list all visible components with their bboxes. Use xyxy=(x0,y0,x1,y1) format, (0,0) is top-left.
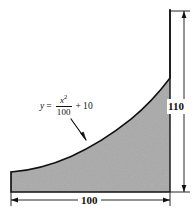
equation-numerator: x2 xyxy=(56,96,72,106)
dim-arrow-left-icon xyxy=(11,198,18,203)
equation-plus: + xyxy=(76,101,81,111)
equation-lhs: y xyxy=(40,101,44,111)
equation-numerator-exponent: 2 xyxy=(64,93,67,100)
leader-arrowhead-icon xyxy=(81,132,86,140)
curve-equation-label: y=x2100+10 xyxy=(40,96,93,118)
equation-equals: = xyxy=(46,101,51,111)
dim-arrow-down-icon xyxy=(182,185,187,192)
parabola-figure-svg xyxy=(0,0,195,214)
equation-constant: 10 xyxy=(83,101,93,111)
figure-container: y=x2100+10 110 100 xyxy=(0,0,195,214)
dim-arrow-up-icon xyxy=(182,11,187,18)
equation-leader-line xyxy=(71,119,86,140)
equation-fraction: x2100 xyxy=(56,96,72,118)
horizontal-dimension-label: 100 xyxy=(78,194,101,207)
equation-denominator: 100 xyxy=(56,107,72,117)
vertical-dimension-label: 110 xyxy=(167,99,185,114)
dim-arrow-right-icon xyxy=(163,198,170,203)
